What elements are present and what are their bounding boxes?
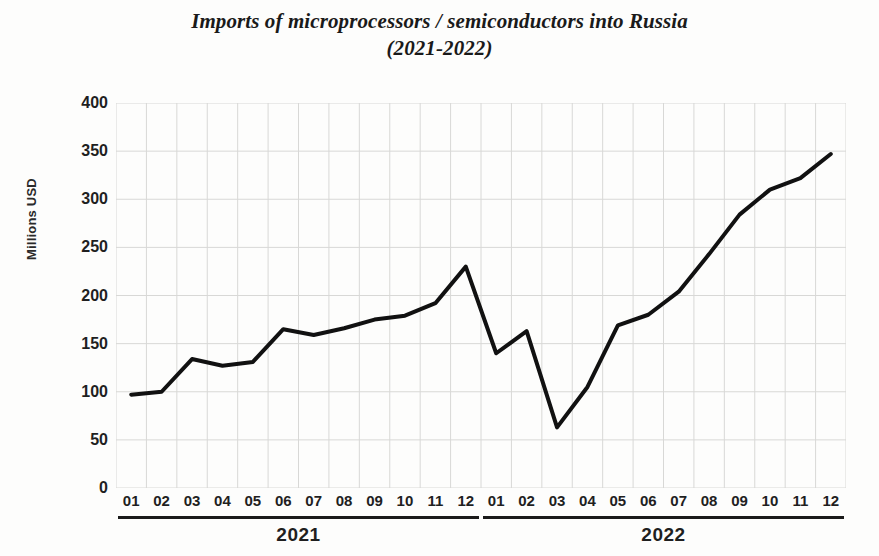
x-tick-label: 10 xyxy=(753,492,787,509)
x-tick-label: 02 xyxy=(145,492,179,509)
x-tick-label: 04 xyxy=(205,492,239,509)
chart-figure: Imports of microprocessors / semiconduct… xyxy=(0,0,879,556)
group-rule xyxy=(483,516,844,519)
x-tick-label: 12 xyxy=(814,492,848,509)
chart-title-line-2: (2021-2022) xyxy=(0,35,879,62)
chart-title: Imports of microprocessors / semiconduct… xyxy=(0,8,879,62)
x-tick-label: 01 xyxy=(114,492,148,509)
x-tick-label: 11 xyxy=(783,492,817,509)
y-tick-label: 250 xyxy=(56,238,108,256)
x-tick-label: 05 xyxy=(601,492,635,509)
x-tick-label: 07 xyxy=(297,492,331,509)
x-tick-label: 03 xyxy=(175,492,209,509)
x-tick-label: 09 xyxy=(723,492,757,509)
y-tick-label: 300 xyxy=(56,190,108,208)
y-tick-label: 350 xyxy=(56,142,108,160)
x-tick-label: 07 xyxy=(662,492,696,509)
y-tick-label: 200 xyxy=(56,287,108,305)
group-rule xyxy=(118,516,479,519)
line-chart-svg xyxy=(116,103,846,488)
x-axis-group-labels: 20212022 xyxy=(0,516,879,556)
x-tick-label: 04 xyxy=(570,492,604,509)
y-tick-label: 150 xyxy=(56,335,108,353)
group-label: 2022 xyxy=(483,524,844,546)
y-tick-label: 400 xyxy=(56,94,108,112)
x-axis-tick-labels: 0102030405060708091011120102030405060708… xyxy=(0,492,879,518)
x-tick-label: 08 xyxy=(692,492,726,509)
y-axis-label: Millions USD xyxy=(24,120,39,260)
chart-title-line-1: Imports of microprocessors / semiconduct… xyxy=(0,8,879,35)
y-tick-label: 100 xyxy=(56,383,108,401)
x-tick-label: 05 xyxy=(236,492,270,509)
y-axis-tick-labels: 400350300250200150100500 xyxy=(50,0,108,556)
x-tick-label: 09 xyxy=(358,492,392,509)
y-tick-label: 50 xyxy=(56,431,108,449)
x-tick-label: 12 xyxy=(449,492,483,509)
x-tick-label: 08 xyxy=(327,492,361,509)
x-tick-label: 02 xyxy=(510,492,544,509)
x-tick-label: 10 xyxy=(388,492,422,509)
group-label: 2021 xyxy=(118,524,479,546)
x-tick-label: 03 xyxy=(540,492,574,509)
x-tick-label: 01 xyxy=(479,492,513,509)
x-tick-label: 06 xyxy=(631,492,665,509)
x-tick-label: 11 xyxy=(418,492,452,509)
plot-area xyxy=(116,103,846,488)
grid-lines xyxy=(116,103,846,488)
x-tick-label: 06 xyxy=(266,492,300,509)
